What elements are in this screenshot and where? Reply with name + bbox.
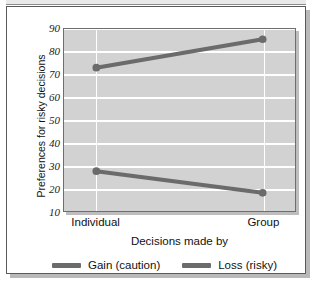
y-axis-title: Preferences for risky decisions xyxy=(35,36,47,216)
x-axis-tick-labels: IndividualGroup xyxy=(63,216,296,232)
series-line xyxy=(96,39,262,67)
data-series-layer xyxy=(64,29,295,211)
chart-card: 908070605040302010 IndividualGroup Prefe… xyxy=(6,6,306,274)
x-axis-tick-label: Individual xyxy=(71,216,120,228)
y-axis-tick-label: 10 xyxy=(49,207,60,218)
x-axis-tick-label: Group xyxy=(247,216,279,228)
series-line xyxy=(96,171,262,193)
legend-swatch-icon xyxy=(52,263,81,268)
legend-entry[interactable]: Loss (risky) xyxy=(182,259,277,271)
y-axis-tick-label: 40 xyxy=(49,138,60,149)
plot-area xyxy=(63,28,296,212)
legend-swatch-icon xyxy=(182,263,211,268)
legend-label: Gain (caution) xyxy=(88,259,160,271)
y-axis-tick-label: 90 xyxy=(49,23,60,34)
x-axis-title: Decisions made by xyxy=(63,235,296,247)
y-axis-tick-label: 20 xyxy=(49,184,60,195)
y-axis-tick-label: 80 xyxy=(49,46,60,57)
data-point-marker xyxy=(92,167,100,175)
page-top-strip xyxy=(6,0,306,5)
data-point-marker xyxy=(92,64,100,72)
y-axis-tick-label: 50 xyxy=(49,115,60,126)
figure-container: 908070605040302010 IndividualGroup Prefe… xyxy=(0,0,323,290)
chart-legend: Gain (caution)Loss (risky) xyxy=(23,259,306,271)
legend-entry[interactable]: Gain (caution) xyxy=(52,259,160,271)
y-axis-tick-label: 30 xyxy=(49,161,60,172)
data-point-marker xyxy=(259,189,267,197)
y-axis-tick-label: 70 xyxy=(49,69,60,80)
data-point-marker xyxy=(259,35,267,43)
y-axis-tick-label: 60 xyxy=(49,92,60,103)
legend-label: Loss (risky) xyxy=(218,259,277,271)
